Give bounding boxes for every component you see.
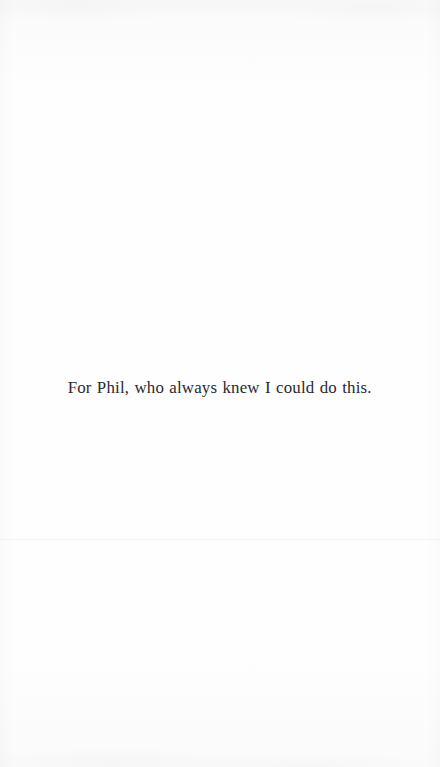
dedication-text: For Phil, who always knew I could do thi… xyxy=(68,378,372,397)
horizontal-scan-seam xyxy=(0,538,440,541)
book-page: For Phil, who always knew I could do thi… xyxy=(0,0,440,767)
dedication-block: For Phil, who always knew I could do thi… xyxy=(0,378,440,397)
paper-grain-bottom xyxy=(0,657,440,767)
paper-grain-top xyxy=(0,0,440,90)
